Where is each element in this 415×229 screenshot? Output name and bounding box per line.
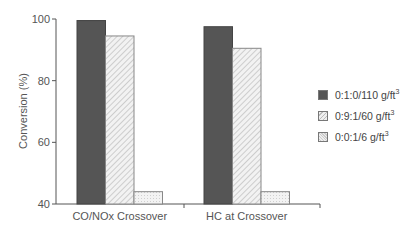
bar <box>233 48 262 204</box>
legend-swatch-hatched <box>318 111 328 121</box>
legend-label: 0:1:0/110 g/ft3 <box>335 88 399 101</box>
y-tick-label: 40 <box>38 198 50 210</box>
y-axis-label: Conversion (%) <box>17 66 29 156</box>
bar <box>77 21 106 204</box>
bar <box>106 36 135 204</box>
legend-swatch-light <box>318 132 328 142</box>
legend: 0:1:0/110 g/ft3 0:9:1/60 g/ft3 0:0:1/6 g… <box>318 84 399 147</box>
legend-item: 0:1:0/110 g/ft3 <box>318 84 399 105</box>
x-category-label: HC at Crossover <box>206 210 288 222</box>
y-tick-label: 100 <box>32 13 50 25</box>
legend-item: 0:0:1/6 g/ft3 <box>318 126 399 147</box>
y-tick-label: 60 <box>38 136 50 148</box>
legend-item: 0:9:1/60 g/ft3 <box>318 105 399 126</box>
bar <box>204 27 233 204</box>
bar <box>261 192 290 204</box>
bar <box>134 192 163 204</box>
bars <box>77 21 290 204</box>
legend-swatch-dark <box>318 90 328 100</box>
y-tick-label: 80 <box>38 75 50 87</box>
x-category-label: CO/NOx Crossover <box>72 210 167 222</box>
legend-label: 0:0:1/6 g/ft3 <box>335 130 389 143</box>
legend-label: 0:9:1/60 g/ft3 <box>335 109 394 122</box>
